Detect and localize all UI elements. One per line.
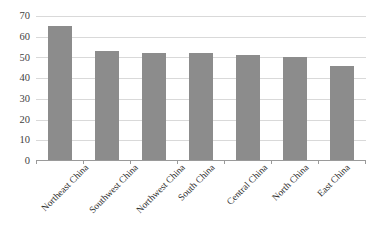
bar-north-china bbox=[283, 57, 307, 161]
y-tick-label-10: 10 bbox=[0, 135, 30, 146]
bar-northeast-china bbox=[48, 26, 72, 161]
x-label-east-china: East China bbox=[316, 163, 352, 199]
y-tick-label-70: 70 bbox=[0, 11, 30, 22]
x-label-north-china: North China bbox=[271, 163, 311, 203]
y-tick-label-60: 60 bbox=[0, 32, 30, 43]
bar-east-china bbox=[330, 66, 354, 161]
y-tick-label-40: 40 bbox=[0, 73, 30, 84]
bar-south-china bbox=[189, 53, 213, 161]
y-tick-label-50: 50 bbox=[0, 53, 30, 64]
y-tick-label-30: 30 bbox=[0, 94, 30, 105]
bar-central-china bbox=[236, 55, 260, 161]
plot-area bbox=[36, 16, 366, 161]
bar-southwest-china bbox=[95, 51, 119, 161]
x-axis-line bbox=[36, 160, 366, 161]
y-axis-labels: 70 60 50 40 30 20 10 0 bbox=[0, 16, 34, 161]
x-label-central-china: Central China bbox=[226, 163, 270, 207]
x-label-southwest-china: Southwest China bbox=[88, 163, 140, 215]
y-tick-label-0: 0 bbox=[0, 156, 30, 167]
x-label-northeast-china: Northeast China bbox=[40, 163, 91, 214]
y-tick-label-20: 20 bbox=[0, 115, 30, 126]
bar-northwest-china bbox=[142, 53, 166, 161]
x-axis-labels: Northeast China Southwest China Northwes… bbox=[36, 163, 366, 229]
bar-chart: 70 60 50 40 30 20 10 0 bbox=[0, 0, 374, 229]
bars-layer bbox=[36, 16, 366, 161]
x-label-northwest-china: Northwest China bbox=[135, 163, 187, 215]
